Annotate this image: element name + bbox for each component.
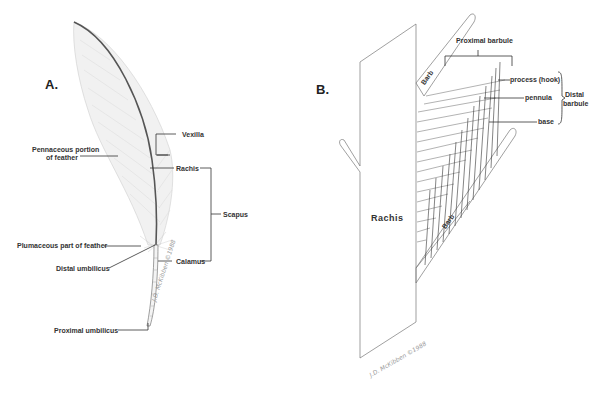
label-rachis-b: Rachis <box>371 214 404 223</box>
label-distal-umbilicus: Distal umbilicus <box>56 265 110 272</box>
label-pennaceous: Pennaceous portion <box>32 146 99 153</box>
label-process-hook: process (hook) <box>510 76 560 83</box>
label-pennula: pennula <box>525 94 552 101</box>
label-distal: Distal <box>565 91 584 98</box>
label-proximal-umbilicus: Proximal umbilicus <box>54 327 118 334</box>
label-rachis-a: Rachis <box>176 165 199 172</box>
label-calamus: Calamus <box>176 258 205 265</box>
rachis-outline <box>340 24 470 358</box>
label-pennaceous-2: of feather <box>46 154 78 161</box>
label-scapus: Scapus <box>223 211 248 218</box>
label-proximal-barbule: Proximal barbule <box>456 37 513 44</box>
label-base: base <box>538 118 554 125</box>
label-barbule: barbule <box>563 100 588 107</box>
feather-vane <box>74 22 173 252</box>
panel-a-label: A. <box>45 77 58 92</box>
label-plumaceous: Plumaceous part of feather <box>17 242 107 249</box>
panel-b-leader-lines <box>445 50 565 124</box>
feather-diagram-graphics <box>0 0 601 398</box>
distal-barbule-lines <box>425 62 500 265</box>
label-vexilla: Vexilla <box>182 131 204 138</box>
panel-b-label: B. <box>316 82 329 97</box>
